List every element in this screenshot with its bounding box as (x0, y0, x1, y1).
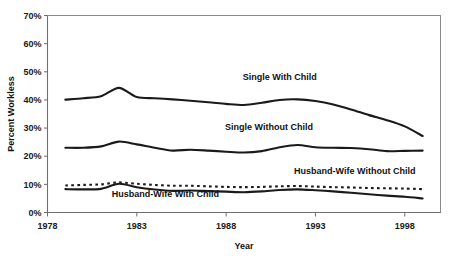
x-tick-label: 1993 (305, 221, 325, 231)
y-tick-label: 60% (23, 39, 41, 49)
chart-figure: 0%10%20%30%40%50%60%70% 1978198319881993… (0, 0, 461, 263)
x-tick-label: 1988 (216, 221, 236, 231)
series-label-single-without-child: Single Without Child (225, 122, 313, 132)
x-axis-title: Year (234, 241, 254, 251)
series-label-single-with-child: Single With Child (243, 72, 317, 82)
y-tick-label: 50% (23, 67, 41, 77)
y-tick-label: 20% (23, 151, 41, 161)
y-tick-label: 30% (23, 123, 41, 133)
y-tick-label: 40% (23, 95, 41, 105)
y-tick-label: 0% (28, 208, 41, 218)
y-axis-title: Percent Workless (6, 76, 16, 151)
y-tick-label: 70% (23, 11, 41, 21)
series-label-husband-wife-without-child: Husband-Wife Without Child (294, 166, 415, 176)
line-chart: 0%10%20%30%40%50%60%70% 1978198319881993… (0, 0, 461, 263)
y-tick-label: 10% (23, 180, 41, 190)
x-tick-label: 1978 (37, 221, 57, 231)
x-tick-label: 1983 (127, 221, 147, 231)
series-label-husband-wife-with-child: Husband-Wife With Child (112, 189, 219, 199)
x-tick-label: 1998 (395, 221, 415, 231)
